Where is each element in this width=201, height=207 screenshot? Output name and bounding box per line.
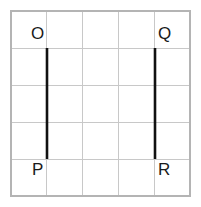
point-label-o: O <box>31 25 44 42</box>
point-label-p: P <box>32 161 43 178</box>
grid-vertical-lines <box>47 11 154 196</box>
point-label-r: R <box>158 161 170 178</box>
geometry-figure: O P Q R <box>0 0 201 207</box>
point-label-q: Q <box>158 25 171 42</box>
grid-horizontal-lines <box>11 48 190 159</box>
